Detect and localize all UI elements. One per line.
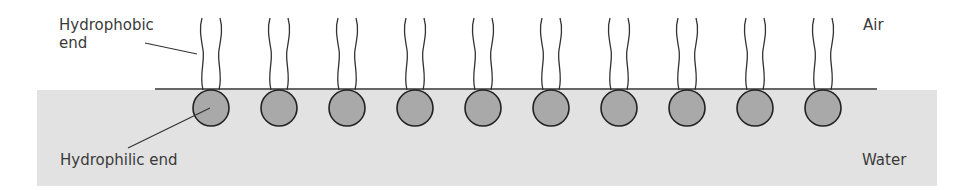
hydrocarbon-tail [336,18,339,90]
polar-head [465,90,501,126]
water-label: Water [862,151,906,169]
hydrocarbon-tail [355,18,358,90]
hydrocarbon-tail [608,18,611,90]
hydrocarbon-tail [268,18,271,90]
surfactant-molecule [533,18,569,126]
polar-head [261,90,297,126]
air-label: Air [863,16,884,34]
hydrocarbon-tail [540,18,543,90]
polar-head [737,90,773,126]
polar-head [805,90,841,126]
surfactant-molecule [329,18,365,126]
polar-head [397,90,433,126]
hydrocarbon-tail [423,18,426,90]
hydrocarbon-tail [472,18,475,90]
surfactant-molecule [805,18,841,126]
hydrocarbon-tail [812,18,815,90]
surfactant-molecule [601,18,637,126]
polar-head [329,90,365,126]
surfactant-molecule [261,18,297,126]
hydrocarbon-tail [627,18,630,90]
hydrocarbon-tail [763,18,766,90]
hydrophilic-end-label: Hydrophilic end [60,151,178,169]
surfactant-molecule [193,18,229,126]
hydrocarbon-tail [744,18,747,90]
surfactant-molecule [669,18,705,126]
hydrophobic-end-label: Hydrophobic end [59,16,154,52]
hydrocarbon-tail [491,18,494,90]
polar-head [193,90,229,126]
hydrocarbon-tail [219,18,222,90]
hydrocarbon-tail [404,18,407,90]
polar-head [533,90,569,126]
polar-head [601,90,637,126]
polar-head [669,90,705,126]
hydrocarbon-tail [559,18,562,90]
surfactant-molecule [397,18,433,126]
hydrocarbon-tail [831,18,834,90]
surfactant-molecule [465,18,501,126]
hydrocarbon-tail [200,18,203,90]
hydrocarbon-tail [695,18,698,90]
surfactant-molecule [737,18,773,126]
hydrocarbon-tail [287,18,290,90]
hydrocarbon-tail [676,18,679,90]
